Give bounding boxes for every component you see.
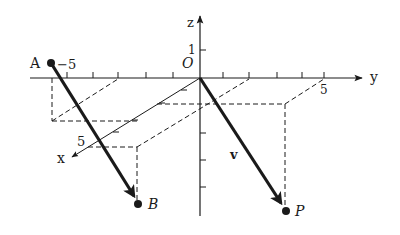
- label-y: y: [369, 69, 378, 85]
- label-v: v: [229, 147, 238, 162]
- z-axis-ticks: [200, 50, 206, 187]
- vector-ab: [47, 59, 142, 208]
- z-axis: [200, 16, 206, 216]
- label-b: B: [147, 196, 158, 212]
- y-axis-ticks: [67, 72, 324, 78]
- point-p: [282, 207, 290, 215]
- vector-diagram: A −5 O z 1 y 5 5 x B P v: [0, 0, 400, 235]
- label-x: x: [57, 150, 65, 166]
- x-axis-ticks: [113, 90, 187, 132]
- x-axis: [72, 78, 200, 157]
- label-a: A: [29, 55, 41, 71]
- point-b: [134, 200, 142, 208]
- label-y-neg5: −5: [57, 57, 76, 72]
- label-x-5: 5: [77, 134, 85, 149]
- construction-lines: [52, 78, 324, 209]
- vector-v: [200, 78, 290, 215]
- label-y-5: 5: [320, 83, 328, 97]
- label-p: P: [294, 203, 305, 219]
- label-origin: O: [182, 55, 194, 71]
- label-z: z: [187, 15, 194, 30]
- label-z-1: 1: [188, 43, 196, 57]
- point-a: [47, 59, 55, 67]
- y-axis: [30, 72, 362, 78]
